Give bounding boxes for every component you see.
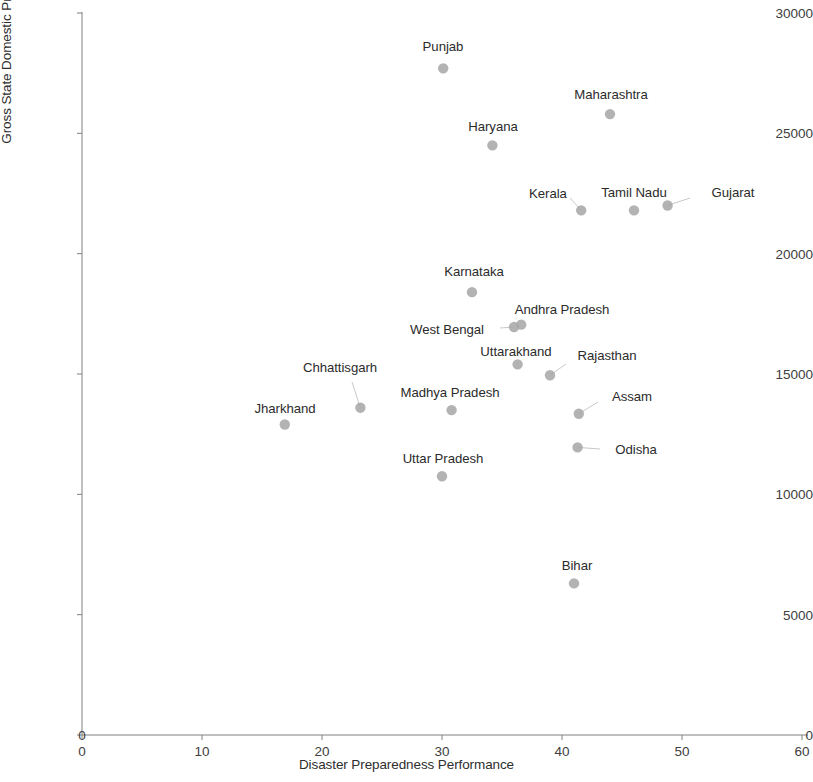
- x-tick-label: 0: [78, 744, 86, 759]
- data-point-label: Uttar Pradesh: [403, 451, 484, 466]
- y-tick-label: 25000: [739, 126, 813, 141]
- x-tick-label: 30: [434, 744, 449, 759]
- x-tick-label: 50: [674, 744, 689, 759]
- y-tick-label: 20000: [739, 246, 813, 261]
- data-point-marker[interactable]: [438, 63, 448, 73]
- data-point-marker[interactable]: [487, 140, 497, 150]
- data-point-marker[interactable]: [509, 322, 519, 332]
- data-point-label: Haryana: [468, 119, 518, 134]
- data-point-marker[interactable]: [280, 419, 290, 429]
- data-point-label: Maharashtra: [574, 87, 647, 102]
- origin-tick-label: 0: [78, 728, 86, 743]
- x-tick-label: 10: [194, 744, 209, 759]
- data-point-label: West Bengal: [410, 322, 484, 337]
- data-point-marker[interactable]: [629, 205, 639, 215]
- y-tick-label: 0: [739, 728, 813, 743]
- data-point-marker[interactable]: [605, 109, 615, 119]
- data-point-label: Tamil Nadu: [601, 185, 666, 200]
- data-point-label: Andhra Pradesh: [515, 302, 610, 317]
- y-tick-label: 15000: [739, 367, 813, 382]
- data-point-marker[interactable]: [569, 578, 579, 588]
- x-tick-label: 20: [314, 744, 329, 759]
- x-tick-label: 60: [794, 744, 809, 759]
- data-point-label: Jharkhand: [254, 401, 315, 416]
- data-point-label: Chhattisgarh: [303, 360, 377, 375]
- x-axis-title: Disaster Preparedness Performance: [0, 757, 813, 772]
- data-point-marker[interactable]: [355, 402, 365, 412]
- data-point-marker[interactable]: [662, 200, 672, 210]
- data-point-marker[interactable]: [446, 405, 456, 415]
- data-point-label: Karnataka: [444, 264, 504, 279]
- y-tick-label: 30000: [739, 6, 813, 21]
- scatter-chart: Gross State Domestic Productper Capita -…: [0, 0, 813, 782]
- x-tick-label: 40: [554, 744, 569, 759]
- data-point-label: Punjab: [423, 39, 464, 54]
- data-point-label: Rajasthan: [578, 348, 637, 363]
- data-point-marker[interactable]: [545, 370, 555, 380]
- data-point-marker[interactable]: [576, 205, 586, 215]
- data-point-label: Bihar: [562, 558, 593, 573]
- y-tick-label: 10000: [739, 487, 813, 502]
- data-point-marker[interactable]: [437, 471, 447, 481]
- data-point-marker[interactable]: [512, 359, 522, 369]
- data-point-label: Assam: [612, 389, 652, 404]
- data-point-label: Uttarakhand: [480, 344, 551, 359]
- data-point-label: Odisha: [615, 442, 656, 457]
- data-point-marker[interactable]: [574, 409, 584, 419]
- y-axis-title: Gross State Domestic Productper Capita -…: [0, 0, 21, 22]
- data-point-label: Kerala: [529, 186, 567, 201]
- data-point-label: Gujarat: [712, 185, 755, 200]
- data-point-marker[interactable]: [467, 287, 477, 297]
- y-axis-title-text: Gross State Domestic Productper Capita -…: [0, 0, 14, 377]
- data-point-marker[interactable]: [572, 442, 582, 452]
- y-tick-label: 5000: [739, 607, 813, 622]
- data-point-label: Madhya Pradesh: [401, 385, 500, 400]
